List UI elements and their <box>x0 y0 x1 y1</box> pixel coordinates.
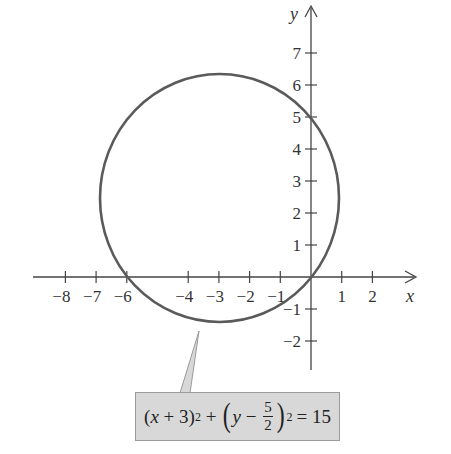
y-tick-label: 2 <box>293 204 302 223</box>
y-tick-label: −2 <box>283 332 301 351</box>
eq-minus: − <box>241 406 261 428</box>
x-tick-label: −4 <box>175 287 194 306</box>
circle-equation: (x + 3)2 + (y − 52)2= 15 <box>144 400 331 433</box>
eq-frac-denominator: 2 <box>264 418 272 433</box>
eq-equals-15: = 15 <box>296 406 330 428</box>
x-ticks: −8−7−6−4−3−2−112 <box>52 271 376 306</box>
y-tick-label: 4 <box>293 140 302 159</box>
eq-plus-3: + 3) <box>159 406 195 428</box>
circle-curve <box>100 74 339 322</box>
x-tick-label: −3 <box>206 287 224 306</box>
eq-big-close-paren: ) <box>277 398 285 432</box>
equation-callout: (x + 3)2 + (y − 52)2= 15 <box>135 392 340 441</box>
y-tick-label: 1 <box>293 236 302 255</box>
x-tick-label: 1 <box>337 287 346 306</box>
x-axis-label: x <box>405 286 414 306</box>
y-ticks: 7654321−1−2 <box>283 44 317 351</box>
y-axis-label: y <box>288 4 298 24</box>
eq-big-open-paren: ( <box>223 398 231 432</box>
eq-var-y: y <box>232 406 240 428</box>
x-tick-label: −6 <box>114 287 132 306</box>
eq-frac-numerator: 5 <box>264 400 272 415</box>
graph-canvas: −8−7−6−4−3−2−112 7654321−1−2 x y <box>0 0 451 454</box>
y-tick-label: 5 <box>293 108 302 127</box>
x-tick-label: 2 <box>368 287 377 306</box>
y-tick-label: 7 <box>293 44 302 63</box>
eq-var-x: x <box>150 406 158 428</box>
x-tick-label: −7 <box>83 287 102 306</box>
y-tick-label: 3 <box>293 172 302 191</box>
eq-plus: + <box>201 406 221 428</box>
x-tick-label: −8 <box>52 287 70 306</box>
callout-pointer <box>180 331 199 393</box>
y-tick-label: 6 <box>293 76 302 95</box>
x-tick-label: −2 <box>237 287 255 306</box>
eq-fraction: 52 <box>263 400 273 433</box>
